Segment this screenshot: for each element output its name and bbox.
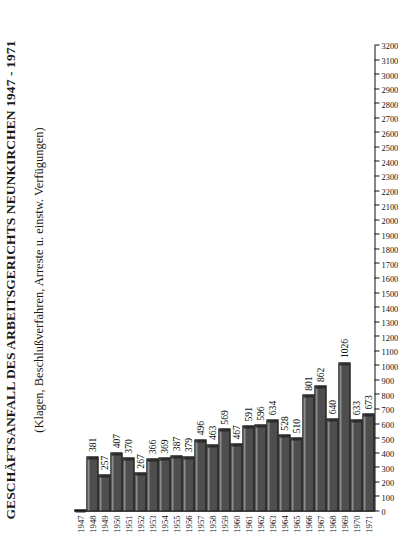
bar bbox=[134, 472, 145, 511]
value-axis-tick bbox=[374, 102, 379, 103]
value-axis-tick-label: 2000 bbox=[381, 216, 398, 225]
category-label: 1959 bbox=[219, 515, 229, 532]
value-axis-tick bbox=[374, 408, 379, 409]
value-axis-tick-label: 3100 bbox=[381, 56, 398, 65]
bar-value-label: 463 bbox=[206, 425, 217, 439]
bar-value-label: 267 bbox=[134, 454, 145, 468]
category-label: 1947 bbox=[75, 515, 85, 532]
bar bbox=[170, 455, 181, 511]
category-label: 1960 bbox=[231, 515, 241, 532]
bar-row: 6331970 bbox=[350, 45, 361, 511]
bar-value-label: 596 bbox=[254, 406, 265, 420]
value-axis-tick bbox=[374, 219, 379, 220]
bar-row: 6341963 bbox=[266, 45, 277, 511]
value-axis-tick-label: 1500 bbox=[381, 289, 398, 298]
value-axis-tick-label: 900 bbox=[381, 376, 394, 385]
bar-row: 5961962 bbox=[254, 45, 265, 511]
bar-value-label: 510 bbox=[290, 418, 301, 432]
bar-row: 3661953 bbox=[146, 45, 157, 511]
value-axis: 0100200300400500600700800900100011001200… bbox=[374, 45, 394, 511]
category-label: 1967 bbox=[315, 515, 325, 532]
bar-row: 5911961 bbox=[242, 45, 253, 511]
category-label: 1970 bbox=[351, 515, 361, 532]
value-axis-tick bbox=[374, 175, 379, 176]
value-axis-tick bbox=[374, 277, 379, 278]
bar-value-label: 528 bbox=[278, 416, 289, 430]
value-axis-tick-label: 300 bbox=[381, 464, 394, 473]
value-axis-tick bbox=[374, 335, 379, 336]
bar bbox=[146, 458, 157, 511]
value-axis-tick bbox=[374, 117, 379, 118]
value-axis-tick bbox=[374, 321, 379, 322]
value-axis-tick-label: 700 bbox=[381, 405, 394, 414]
bar-row: 5281964 bbox=[278, 45, 289, 511]
bar bbox=[326, 418, 337, 511]
value-axis-tick-label: 1600 bbox=[381, 274, 398, 283]
bar-value-label: 633 bbox=[350, 400, 361, 414]
bar bbox=[338, 362, 349, 511]
value-axis-tick bbox=[374, 44, 379, 45]
value-axis-tick bbox=[374, 510, 379, 511]
value-axis-tick-label: 3200 bbox=[381, 41, 398, 50]
category-label: 1966 bbox=[303, 515, 313, 532]
category-label: 1962 bbox=[255, 515, 265, 532]
bar bbox=[362, 413, 373, 511]
bar bbox=[266, 419, 277, 511]
value-axis-tick bbox=[374, 146, 379, 147]
value-axis-tick-label: 0 bbox=[381, 507, 385, 516]
bar-row: 3811948 bbox=[86, 45, 97, 511]
bar-row: 10261969 bbox=[338, 45, 349, 511]
value-axis-tick bbox=[374, 481, 379, 482]
value-axis-tick bbox=[374, 233, 379, 234]
bar-row: 1947 bbox=[74, 45, 85, 511]
category-label: 1956 bbox=[183, 515, 193, 532]
value-axis-tick bbox=[374, 248, 379, 249]
category-label: 1961 bbox=[243, 515, 253, 532]
value-axis-tick-label: 2400 bbox=[381, 158, 398, 167]
bar-value-label: 387 bbox=[170, 436, 181, 450]
bar-value-label: 496 bbox=[194, 420, 205, 434]
value-axis-tick-label: 100 bbox=[381, 493, 394, 502]
category-label: 1963 bbox=[267, 515, 277, 532]
bar bbox=[290, 437, 301, 511]
plot-area: 1947381194825719494071950370195126719523… bbox=[74, 45, 374, 511]
value-axis-tick-label: 1400 bbox=[381, 304, 398, 313]
bar bbox=[98, 474, 109, 511]
bar-row: 3791956 bbox=[182, 45, 193, 511]
bar-value-label: 257 bbox=[98, 455, 109, 469]
value-axis-tick bbox=[374, 190, 379, 191]
chart-subtitle: (Klagen, Beschlußverfahren, Arreste u. e… bbox=[31, 0, 46, 559]
value-axis-tick-label: 1300 bbox=[381, 318, 398, 327]
category-label: 1964 bbox=[279, 515, 289, 532]
value-axis-tick-label: 2100 bbox=[381, 202, 398, 211]
category-label: 1949 bbox=[99, 515, 109, 532]
bar-value-label: 467 bbox=[230, 425, 241, 439]
value-axis-tick bbox=[374, 73, 379, 74]
bar bbox=[86, 456, 97, 511]
bar bbox=[218, 428, 229, 511]
bar-value-label: 862 bbox=[314, 367, 325, 381]
category-label: 1971 bbox=[363, 515, 373, 532]
bar bbox=[230, 443, 241, 511]
category-label: 1952 bbox=[135, 515, 145, 532]
category-label: 1953 bbox=[147, 515, 157, 532]
value-axis-tick bbox=[374, 306, 379, 307]
bar-row: 5101965 bbox=[290, 45, 301, 511]
bar-value-label: 407 bbox=[110, 433, 121, 447]
category-label: 1951 bbox=[123, 515, 133, 532]
bar-value-label: 591 bbox=[242, 407, 253, 421]
bar-row: 2671952 bbox=[134, 45, 145, 511]
value-axis-tick-label: 500 bbox=[381, 435, 394, 444]
bar bbox=[206, 444, 217, 511]
bar-value-label: 381 bbox=[86, 437, 97, 451]
category-label: 1957 bbox=[195, 515, 205, 532]
bar bbox=[194, 439, 205, 511]
bar-row: 2571949 bbox=[98, 45, 109, 511]
value-axis-tick bbox=[374, 204, 379, 205]
value-axis-tick bbox=[374, 495, 379, 496]
category-label: 1954 bbox=[159, 515, 169, 532]
value-axis-tick-label: 2200 bbox=[381, 187, 398, 196]
bar-value-label: 370 bbox=[122, 439, 133, 453]
